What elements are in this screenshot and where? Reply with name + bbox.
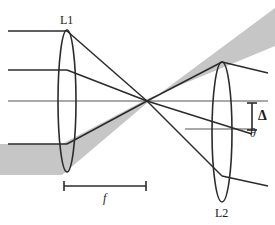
- beam-shading: [0, 8, 275, 175]
- converging-ray-top: [67, 31, 147, 101]
- angle-label: θ: [250, 127, 256, 139]
- converging-ray-lower: [67, 101, 147, 144]
- diagram-canvas: [0, 0, 275, 225]
- displacement-label: Δ: [258, 109, 267, 123]
- lens-l1-label: L1: [60, 14, 73, 26]
- outgoing-ray-top: [222, 62, 268, 73]
- lens-l2: [212, 62, 232, 202]
- lens-l2-label: L2: [215, 207, 228, 219]
- focal-length-label: f: [103, 192, 106, 204]
- converging-ray-upper: [67, 70, 147, 101]
- beam-incoming-band: [0, 144, 62, 175]
- diverging-ray-to-l2-top: [147, 62, 222, 101]
- focal-length-scale-bar: [64, 181, 146, 191]
- beam-diverging-wedge: [147, 8, 275, 103]
- optics-ray-diagram: L1 L2 f Δ θ: [0, 0, 275, 225]
- diverging-rays: [147, 62, 252, 176]
